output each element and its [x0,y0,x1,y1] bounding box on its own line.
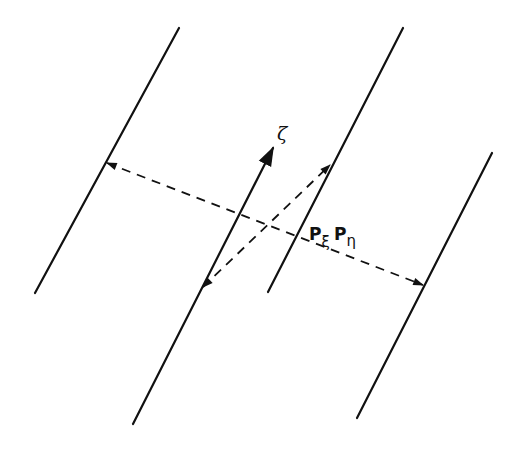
parallel-line-left [35,28,179,293]
p-xi-subscript: ξ [321,233,329,251]
p-eta-main: P [334,224,346,244]
p-eta-label: Pη [334,224,356,250]
p-xi-label: Pξ [309,224,330,251]
p-eta-subscript: η [346,232,356,250]
zeta-label: ζ [277,122,289,144]
p-xi-main: P [309,224,321,244]
parallel-line-right [357,153,492,418]
projection-arrow-long [107,163,423,285]
diagram-canvas: ζ Pξ Pη [0,0,517,453]
parallel-line-middle [268,28,403,292]
